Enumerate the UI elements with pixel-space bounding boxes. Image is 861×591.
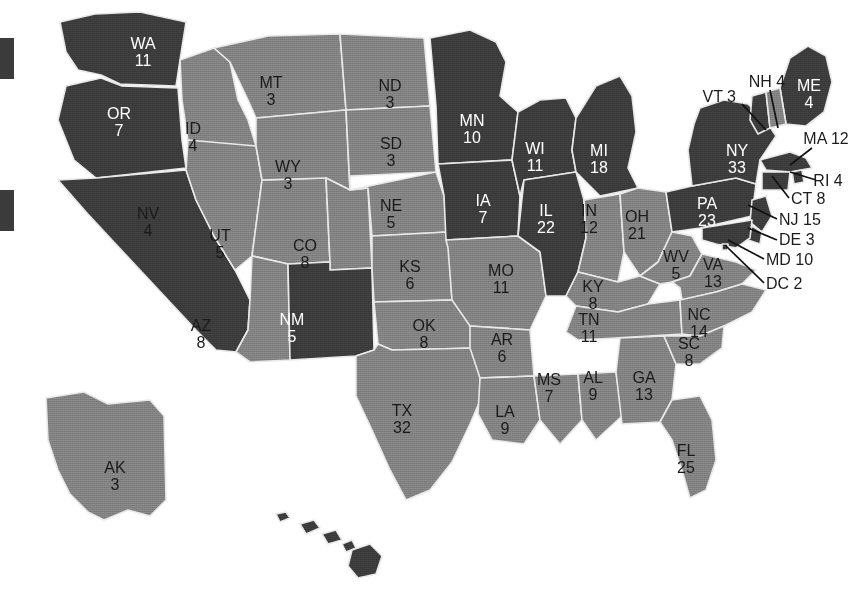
state-votes: 13 xyxy=(704,273,722,290)
state-abbr: OK xyxy=(412,317,435,334)
callout-label-ma: MA 12 xyxy=(803,130,848,147)
state-label-va: VA13 xyxy=(703,256,723,290)
state-abbr: MN xyxy=(460,112,485,129)
state-abbr: SD xyxy=(380,135,402,152)
state-votes: 54 xyxy=(80,247,98,264)
state-shape-co[interactable] xyxy=(326,178,372,270)
state-votes: 12 xyxy=(580,219,598,236)
legend-swatch-top xyxy=(0,38,14,79)
state-abbr: OH xyxy=(625,208,649,225)
state-abbr: NV xyxy=(137,205,160,222)
state-abbr: CA xyxy=(78,230,101,247)
state-votes: 9 xyxy=(501,420,510,437)
state-votes: 5 xyxy=(387,214,396,231)
state-abbr: WA xyxy=(130,35,156,52)
state-votes: 22 xyxy=(537,219,555,236)
state-shape-tx[interactable] xyxy=(356,344,482,500)
state-votes: 9 xyxy=(589,386,598,403)
state-label-pa: PA23 xyxy=(697,195,717,229)
state-label-ca: CA54 xyxy=(78,230,101,264)
state-shape-ri[interactable] xyxy=(792,170,804,184)
state-label-in: IN12 xyxy=(580,202,598,236)
state-abbr: TX xyxy=(392,402,413,419)
state-abbr: KS xyxy=(399,258,420,275)
state-abbr: WY xyxy=(275,158,301,175)
state-label-wi: WI11 xyxy=(525,140,545,174)
state-votes: 3 xyxy=(267,91,276,108)
state-abbr: GA xyxy=(632,369,655,386)
state-abbr: IL xyxy=(539,202,552,219)
state-shape-wa[interactable] xyxy=(60,12,186,86)
state-votes: 4 xyxy=(144,222,153,239)
state-abbr: LA xyxy=(495,403,515,420)
state-abbr: WI xyxy=(525,140,545,157)
state-abbr: ME xyxy=(797,77,821,94)
state-votes: 7 xyxy=(115,122,124,139)
state-votes: 23 xyxy=(698,212,716,229)
state-label-ny: NY33 xyxy=(726,142,749,176)
state-shape-wy[interactable] xyxy=(256,110,350,190)
state-votes: 11 xyxy=(527,157,544,174)
callout-label-vt: VT 3 xyxy=(703,88,737,105)
state-votes: 11 xyxy=(493,279,510,296)
state-shape-mi[interactable] xyxy=(572,76,638,196)
state-label-fl: FL25 xyxy=(677,442,696,476)
state-votes: 3 xyxy=(111,476,120,493)
state-abbr: VA xyxy=(703,256,723,273)
state-label-mi: MI18 xyxy=(590,142,608,176)
state-shape-hi[interactable] xyxy=(276,512,290,522)
state-votes: 5 xyxy=(216,244,225,261)
state-votes: 13 xyxy=(635,386,653,403)
state-abbr: IN xyxy=(581,202,597,219)
state-label-oh: OH21 xyxy=(625,208,649,242)
state-votes: 11 xyxy=(135,52,152,69)
state-abbr: KY xyxy=(582,278,604,295)
state-votes: 4 xyxy=(805,94,814,111)
state-votes: 3 xyxy=(386,94,395,111)
state-votes: 7 xyxy=(545,388,554,405)
state-abbr: OR xyxy=(107,105,131,122)
state-abbr: NY xyxy=(726,142,749,159)
state-abbr: IA xyxy=(475,192,490,209)
state-abbr: AZ xyxy=(191,317,212,334)
state-abbr: NE xyxy=(380,197,402,214)
state-votes: 8 xyxy=(197,334,206,351)
state-votes: 32 xyxy=(393,419,411,436)
state-votes: 5 xyxy=(672,265,681,282)
state-votes: 21 xyxy=(628,225,646,242)
legend-swatch-bottom xyxy=(0,190,14,231)
callout-label-nj: NJ 15 xyxy=(779,211,821,228)
state-votes: 3 xyxy=(284,175,293,192)
state-abbr: MT xyxy=(259,74,282,91)
state-votes: 5 xyxy=(288,328,297,345)
state-votes: 8 xyxy=(685,352,694,369)
state-votes: 6 xyxy=(406,275,415,292)
callout-label-de: DE 3 xyxy=(779,231,815,248)
state-votes: 11 xyxy=(581,328,598,345)
state-abbr: AL xyxy=(583,369,603,386)
state-abbr: AR xyxy=(491,331,513,348)
state-votes: 4 xyxy=(189,137,198,154)
state-abbr: TN xyxy=(578,311,599,328)
state-abbr: FL xyxy=(677,442,696,459)
state-shape-hi[interactable] xyxy=(300,520,320,534)
state-votes: 4 xyxy=(313,564,322,581)
callout-label-ct: CT 8 xyxy=(791,190,825,207)
state-label-tx: TX32 xyxy=(392,402,413,436)
state-abbr: NM xyxy=(280,311,305,328)
electoral-map: WA11OR7CA54ID4NV4UT5AZ8MT3WY3CO8NM5ND3SD… xyxy=(0,0,861,591)
callout-label-nh: NH 4 xyxy=(749,73,786,90)
state-shape-hi[interactable] xyxy=(348,544,382,578)
state-label-az: AZ8 xyxy=(191,317,212,351)
state-shape-hi[interactable] xyxy=(322,530,342,544)
state-votes: 25 xyxy=(677,459,695,476)
state-shape-ak[interactable] xyxy=(46,392,166,520)
callout-label-ri: RI 4 xyxy=(813,172,842,189)
state-votes: 3 xyxy=(387,152,396,169)
state-abbr: AK xyxy=(104,459,126,476)
state-votes: 18 xyxy=(590,159,608,176)
callout-label-md: MD 10 xyxy=(766,251,813,268)
state-votes: 8 xyxy=(420,334,429,351)
state-abbr: WV xyxy=(663,248,689,265)
state-votes: 33 xyxy=(728,159,746,176)
